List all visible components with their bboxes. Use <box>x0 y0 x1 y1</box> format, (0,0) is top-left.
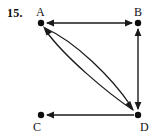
edge-a-b <box>46 20 133 27</box>
edge-b-d-arrowhead-at-d <box>135 102 142 110</box>
vertex-label-a: A <box>36 6 45 18</box>
vertex-label-d: D <box>140 121 149 133</box>
vertex-dot-d[interactable] <box>135 112 141 118</box>
figure-canvas: 15. <box>0 0 155 137</box>
vertex-label-b: B <box>134 6 142 18</box>
edge-a-b-arrowhead-at-a <box>46 20 54 27</box>
directed-graph <box>0 0 155 137</box>
vertex-label-c: C <box>33 121 41 133</box>
edge-d-c <box>46 112 134 119</box>
edge-b-d <box>135 28 142 110</box>
edge-b-d-arrowhead-at-b <box>135 28 142 36</box>
vertex-dot-a[interactable] <box>38 20 44 26</box>
edge-a-d-outer <box>45 28 134 111</box>
edge-d-c-arrowhead-at-c <box>46 112 54 119</box>
edge-a-b-arrowhead-at-b <box>125 20 133 27</box>
edge-d-a-inner <box>43 26 133 110</box>
edge-d-a-inner-path <box>46 31 133 110</box>
vertex-dot-b[interactable] <box>135 20 141 26</box>
vertex-dot-c[interactable] <box>38 112 44 118</box>
edge-a-d-outer-path <box>45 28 131 106</box>
